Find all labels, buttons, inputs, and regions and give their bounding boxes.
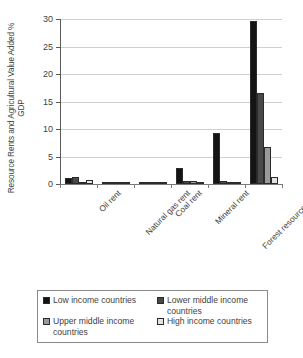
y-tick-label: 5 [48,152,53,162]
bar [72,177,79,184]
y-tick-label: 0 [48,179,53,189]
legend-swatch-icon [43,318,50,325]
y-tick-label: 30 [43,14,53,24]
bar-group [97,19,134,184]
bar-groups [60,19,282,184]
legend-swatch-icon [43,297,50,304]
bar-group [208,19,245,184]
legend-item-label: High income countries [167,316,252,327]
bar [213,133,220,184]
chart-legend: Low income countries Lower middle income… [37,290,268,343]
bar [271,177,278,184]
y-axis-title: Resource Rents and Agricultural Value Ad… [4,18,30,198]
y-tick-label: 25 [43,42,53,52]
legend-item-label: Upper middle income countries [53,316,157,337]
legend-item-low-income: Low income countries [43,295,157,306]
bar-chart-figure: Resource Rents and Agricultural Value Ad… [0,0,303,358]
plot-area: 051015202530 [60,19,282,184]
x-axis-label: Oil rent [96,188,122,214]
legend-item-label: Lower middle income countries [167,295,262,316]
x-axis-label: Mineral rent [212,188,250,226]
bar-group [134,19,171,184]
legend-row: Low income countries Lower middle income… [43,295,262,316]
y-tick-label: 10 [43,124,53,134]
x-axis-label: Agricultural value added [300,188,303,258]
x-axis-labels: Oil rentNatural gas rentCoal rentMineral… [60,188,290,268]
bar-group [60,19,97,184]
bar [264,147,271,184]
y-tick-label: 15 [43,97,53,107]
bar [250,21,257,184]
legend-swatch-icon [157,318,164,325]
y-tick-label: 20 [43,69,53,79]
legend-row: Upper middle income countries High incom… [43,316,262,337]
bar-group [171,19,208,184]
bar [176,168,183,184]
x-axis-label: Forest resources rent [260,188,303,251]
legend-item-upper-middle-income: Upper middle income countries [43,316,157,337]
legend-item-high-income: High income countries [157,316,262,327]
y-axis-title-wrapper: Resource Rents and Agricultural Value Ad… [4,18,30,198]
legend-swatch-icon [157,297,164,304]
bar [257,93,264,184]
legend-item-lower-middle-income: Lower middle income countries [157,295,262,316]
bar-group [245,19,282,184]
legend-item-label: Low income countries [53,295,136,306]
